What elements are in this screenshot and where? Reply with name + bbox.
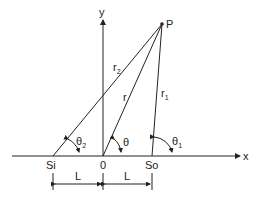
source-si-label: Si — [46, 159, 56, 171]
theta1-arc — [154, 137, 172, 152]
r2-label: r2 — [113, 61, 121, 75]
x-axis-label: x — [243, 150, 249, 162]
origin-label: 0 — [100, 159, 106, 171]
spacing-left-label: L — [75, 170, 81, 182]
theta2-label: θ2 — [76, 135, 86, 149]
r1-label: r1 — [161, 87, 169, 101]
point-p — [160, 22, 164, 26]
spacing-right-label: L — [124, 170, 130, 182]
r-label: r — [123, 91, 127, 103]
source-so-label: So — [145, 159, 158, 171]
theta1-label: θ1 — [172, 135, 182, 149]
y-axis-label: y — [99, 6, 105, 18]
theta-label: θ — [123, 136, 129, 148]
point-p-label: P — [166, 18, 173, 30]
theta-arc — [114, 139, 121, 152]
line-r2 — [53, 24, 162, 156]
diagram-canvas: x y P r2 r r1 θ2 θ θ1 Si 0 So L L — [0, 0, 260, 202]
